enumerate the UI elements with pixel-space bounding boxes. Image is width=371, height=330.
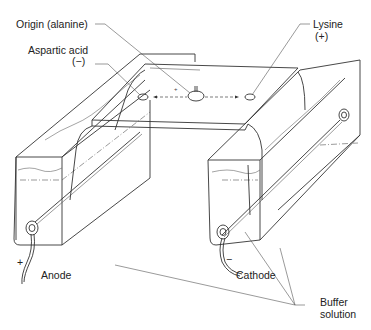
paper-strip — [70, 64, 305, 200]
electrophoresis-diagram: + Origin (alanine) Aspartic acid (−) Lys… — [0, 0, 371, 330]
buffer-solution-label-line1: Buffer — [320, 296, 348, 308]
anode-connector — [22, 221, 38, 284]
origin-alanine-label: Origin (alanine) — [16, 18, 88, 30]
cathode-sign: − — [226, 253, 232, 265]
svg-text:+: + — [174, 86, 178, 92]
spots: + — [138, 86, 255, 101]
origin-alanine-spot — [188, 91, 204, 101]
lysine-charge: (+) — [315, 30, 328, 42]
arrowhead-right-icon — [235, 96, 239, 99]
lysine-spot — [245, 94, 255, 100]
anode-sign: + — [17, 256, 23, 268]
arrowhead-left-icon — [153, 96, 157, 99]
lysine-label: Lysine — [313, 18, 343, 30]
leader-lines — [95, 24, 310, 305]
cathode-label: Cathode — [236, 269, 276, 281]
cathode-back-connector — [339, 109, 349, 121]
buffer-solution-label-line2: solution — [320, 308, 356, 320]
aspartic-acid-charge: (−) — [72, 55, 85, 67]
anode-label: Anode — [41, 269, 71, 281]
left-buffer-tank — [14, 54, 195, 245]
right-buffer-tank — [208, 60, 360, 245]
